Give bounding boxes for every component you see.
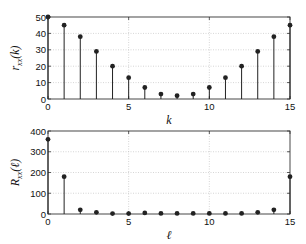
y-tick-label: 50: [35, 12, 46, 23]
data-point: [159, 92, 164, 97]
data-point: [175, 211, 180, 216]
data-point: [78, 207, 83, 212]
data-point: [94, 210, 99, 215]
y-tick-label: 400: [30, 126, 46, 137]
stem-series: [46, 137, 293, 216]
data-point: [207, 211, 212, 216]
data-point: [255, 49, 260, 54]
data-point: [142, 85, 147, 90]
data-point: [94, 49, 99, 54]
data-point: [239, 211, 244, 216]
y-tick-label: 200: [30, 167, 46, 178]
autocorrelation-plot-top: 01020304050051015krxx(k): [8, 12, 295, 128]
x-tick-label: 15: [285, 216, 296, 227]
data-point: [110, 64, 115, 69]
data-point: [191, 211, 196, 216]
y-tick-label: 40: [35, 28, 46, 39]
figure: 01020304050051015krxx(k) 010020030040005…: [0, 0, 306, 244]
grid-lines: [48, 131, 290, 214]
y-axis-label: rxx(k): [8, 45, 24, 70]
x-tick-label: 5: [126, 101, 131, 112]
data-point: [110, 211, 115, 216]
y-tick-label: 100: [30, 188, 46, 199]
data-point: [46, 137, 51, 142]
data-point: [255, 210, 260, 215]
x-tick-label: 0: [45, 101, 50, 112]
data-point: [142, 211, 147, 216]
data-point: [191, 92, 196, 97]
grid-lines: [48, 17, 290, 99]
data-point: [271, 34, 276, 39]
data-point: [288, 23, 293, 28]
data-point: [175, 93, 180, 98]
data-point: [78, 34, 83, 39]
x-tick-label: 10: [204, 101, 215, 112]
stem-series: [46, 15, 293, 99]
autocorrelation-plot-bottom: 0100200300400051015ℓRxx(ℓ): [8, 126, 295, 243]
data-point: [126, 211, 131, 216]
data-point: [288, 174, 293, 179]
y-tick-label: 300: [30, 146, 46, 157]
y-tick-label: 30: [35, 44, 46, 55]
data-point: [223, 211, 228, 216]
data-point: [62, 174, 67, 179]
tick-labels: 01020304050051015: [35, 12, 295, 113]
data-point: [46, 15, 51, 20]
y-axis-label: Rxx(ℓ): [8, 159, 24, 187]
data-point: [126, 75, 131, 80]
y-tick-label: 20: [35, 61, 46, 72]
data-point: [223, 75, 228, 80]
x-tick-label: 10: [204, 216, 215, 227]
x-axis-label: k: [166, 113, 172, 127]
x-tick-label: 0: [45, 216, 50, 227]
y-tick-label: 10: [35, 77, 46, 88]
data-point: [207, 85, 212, 90]
x-tick-label: 5: [126, 216, 131, 227]
x-tick-label: 15: [285, 101, 296, 112]
data-point: [271, 207, 276, 212]
data-point: [239, 64, 244, 69]
axes-box: [48, 17, 290, 99]
x-axis-label: ℓ: [167, 228, 172, 242]
data-point: [159, 211, 164, 216]
data-point: [62, 23, 67, 28]
